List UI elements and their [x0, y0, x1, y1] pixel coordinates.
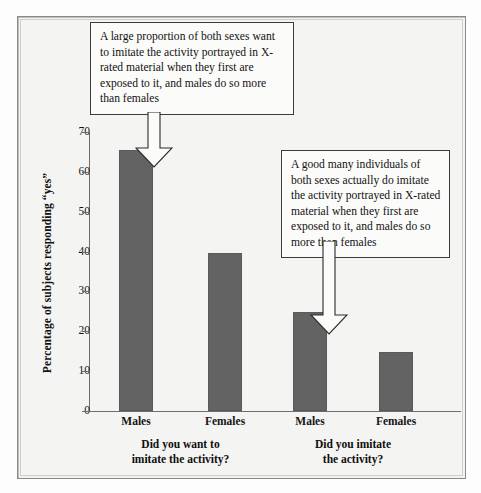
chart-frame: Percentage of subjects responding “yes” … — [17, 16, 466, 479]
y-tick-mark — [82, 132, 90, 133]
bar-females-want — [208, 253, 242, 411]
y-tick-mark — [82, 411, 90, 412]
x-group-label-1: Did you want toimitate the activity? — [81, 437, 281, 467]
y-tick-mark — [82, 371, 90, 372]
plot-area: Percentage of subjects responding “yes” … — [18, 17, 465, 478]
x-label-bar-females-want: Females — [180, 415, 270, 427]
y-tick-mark — [82, 331, 90, 332]
x-label-bar-males-imitate: Males — [265, 415, 355, 427]
down-arrow-icon-first — [135, 112, 173, 168]
y-tick-mark — [82, 252, 90, 253]
x-axis-line — [89, 411, 461, 412]
annotation-callout-first: A large proportion of both sexes want to… — [90, 22, 294, 115]
x-group-label-line1: Did you want to — [81, 437, 281, 452]
x-label-bar-males-want: Males — [91, 415, 181, 427]
bar-males-want — [119, 150, 153, 411]
x-group-label-line2: the activity? — [253, 452, 453, 467]
down-arrow-icon-second — [310, 241, 348, 335]
x-group-label-line2: imitate the activity? — [81, 452, 281, 467]
x-label-bar-females-imitate: Females — [351, 415, 441, 427]
y-tick-mark — [82, 291, 90, 292]
x-group-label-2: Did you imitatethe activity? — [253, 437, 453, 467]
y-axis-title: Percentage of subjects responding “yes” — [41, 158, 53, 388]
x-group-label-line1: Did you imitate — [253, 437, 453, 452]
figure-container: Percentage of subjects responding “yes” … — [0, 0, 481, 493]
y-tick-mark — [82, 172, 90, 173]
y-tick-mark — [82, 212, 90, 213]
annotation-callout-second: A good many individuals of both sexes ac… — [281, 150, 450, 258]
bar-females-imitate — [379, 352, 413, 411]
